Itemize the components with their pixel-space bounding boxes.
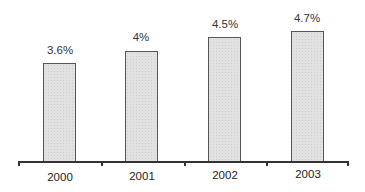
x-tick-label-2002: 2002 (195, 169, 255, 181)
bar-2000 (43, 63, 76, 162)
x-tick-label-2000: 2000 (30, 171, 90, 183)
bar-2002 (208, 37, 241, 162)
value-label-2003: 4.7% (277, 12, 337, 24)
x-axis-tick (18, 161, 20, 166)
value-label-2000: 3.6% (30, 44, 90, 56)
x-tick-label-2001: 2001 (112, 170, 172, 182)
x-tick-label-2003: 2003 (278, 168, 338, 180)
x-axis (18, 161, 348, 163)
bar-2001 (125, 51, 158, 162)
x-axis-tick (347, 161, 349, 166)
x-axis-tick (266, 161, 268, 166)
bar-2003 (291, 31, 324, 162)
bar-chart: 3.6% 4% 4.5% 4.7% 2000 2001 2002 2003 (0, 0, 365, 192)
value-label-2001: 4% (111, 31, 171, 43)
x-axis-tick (184, 161, 186, 166)
x-axis-tick (101, 161, 103, 166)
value-label-2002: 4.5% (195, 18, 255, 30)
